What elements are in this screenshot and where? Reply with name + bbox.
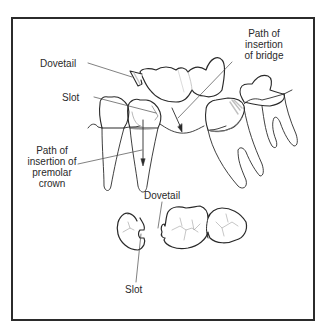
dovetail-leader xyxy=(88,63,132,77)
gum-line xyxy=(88,90,292,133)
premolar-arrow-head xyxy=(141,159,145,166)
label-dovetail: Dovetail xyxy=(40,58,76,69)
occlusal-view xyxy=(117,202,246,282)
tooth-molar-root xyxy=(208,108,263,188)
bridge-insertion-arrow xyxy=(172,108,181,128)
label-premolar-path-line3: premolar xyxy=(22,167,82,178)
bridge-pontic xyxy=(140,58,224,102)
side-view xyxy=(78,58,297,192)
tooth-left-crown xyxy=(100,97,129,128)
dental-bridge-diagram: Dovetail Slot Path of insertion of bridg… xyxy=(0,0,330,331)
label-premolar-path-line1: Path of xyxy=(22,145,82,156)
occlusal-premolar xyxy=(117,213,145,250)
label-premolar-path-line4: crown xyxy=(22,178,82,189)
label-occlusal-slot: Slot xyxy=(125,284,142,295)
premolar-path-leader xyxy=(78,150,142,164)
occlusal-connector xyxy=(207,218,209,238)
label-bridge-path-line3: of bridge xyxy=(232,50,296,61)
occlusal-premolar-fissure xyxy=(123,222,134,232)
tooth-left-root xyxy=(102,128,124,191)
occlusal-dovetail-leader xyxy=(158,202,162,228)
tooth-molar-crown-shade xyxy=(230,100,242,114)
label-slot: Slot xyxy=(62,92,79,103)
label-bridge-path-line2: insertion xyxy=(232,39,296,50)
bridge-arrow-head xyxy=(178,124,182,132)
label-bridge-path-line1: Path of xyxy=(232,28,296,39)
occlusal-bridge-fissures xyxy=(172,214,238,240)
label-premolar-path: Path of insertion of premolar crown xyxy=(22,145,82,189)
label-occlusal-dovetail: Dovetail xyxy=(144,190,180,201)
label-premolar-path-line2: insertion of xyxy=(22,156,82,167)
label-bridge-path: Path of insertion of bridge xyxy=(232,28,296,61)
occlusal-slot-leader xyxy=(136,234,141,282)
tooth-last-molar-root xyxy=(262,94,297,148)
occlusal-bridge xyxy=(161,206,246,249)
slot-leader xyxy=(94,97,156,113)
